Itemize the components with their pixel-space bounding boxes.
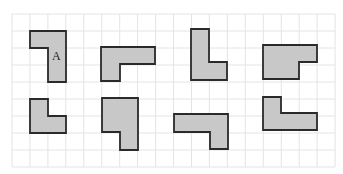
l-shape-6 xyxy=(102,98,138,150)
l-shape-7 xyxy=(174,114,228,149)
l-shape-3 xyxy=(191,29,227,80)
l-shape-5 xyxy=(30,99,66,133)
l-shape-8 xyxy=(263,97,317,130)
shape-label: A xyxy=(52,49,61,63)
grid-diagram: A xyxy=(0,0,343,174)
l-shape-4 xyxy=(263,45,317,79)
l-shape-2 xyxy=(101,47,155,81)
